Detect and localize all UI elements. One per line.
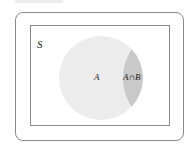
sample-space-label: S	[37, 38, 43, 50]
intersection-label: A∩B	[122, 72, 141, 82]
set-a-label: A	[93, 72, 100, 82]
venn-diagram: S A A∩B	[0, 0, 196, 148]
